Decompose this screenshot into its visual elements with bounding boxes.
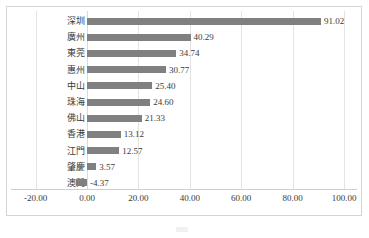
bar-row: 香港13.12 [7, 126, 361, 142]
bar-track: 13.12 [7, 126, 361, 142]
x-tick-label: 40.00 [180, 193, 200, 203]
bar [87, 50, 176, 57]
bar-row: 江門12.57 [7, 143, 361, 159]
bar [87, 66, 166, 73]
bar-track: 30.77 [7, 62, 361, 78]
x-tick-label: 0.00 [79, 193, 95, 203]
bar [76, 179, 87, 186]
value-label: 25.40 [155, 78, 175, 94]
bar [87, 18, 321, 25]
bar-track: 21.33 [7, 110, 361, 126]
bar-rows: 深圳91.02廣州40.29東莞34.74惠州30.77中山25.40珠海24.… [7, 13, 361, 191]
bar [87, 82, 152, 89]
value-label: 91.02 [324, 13, 344, 29]
bar-row: 中山25.40 [7, 78, 361, 94]
x-tick-label: 100.00 [332, 193, 357, 203]
value-label: 30.77 [169, 62, 189, 78]
value-label: 13.12 [124, 126, 144, 142]
caption-marker-icon [176, 227, 188, 232]
bar-row: 佛山21.33 [7, 110, 361, 126]
value-label: 24.60 [153, 94, 173, 110]
bar [87, 147, 119, 154]
bar [87, 34, 191, 41]
bar-row: 珠海24.60 [7, 94, 361, 110]
bar-row: 深圳91.02 [7, 13, 361, 29]
x-tick-label: 20.00 [128, 193, 148, 203]
bar-row: 惠州30.77 [7, 62, 361, 78]
value-label: 40.29 [194, 29, 214, 45]
bar-track: 40.29 [7, 29, 361, 45]
bar-track: 3.57 [7, 159, 361, 175]
value-label: 12.57 [122, 143, 142, 159]
bar-track: 34.74 [7, 45, 361, 61]
figure-caption [0, 224, 369, 238]
plot-area: 深圳91.02廣州40.29東莞34.74惠州30.77中山25.40珠海24.… [7, 7, 361, 215]
bar-track: 25.40 [7, 78, 361, 94]
x-axis-line [11, 189, 357, 190]
chart-frame: 深圳91.02廣州40.29東莞34.74惠州30.77中山25.40珠海24.… [6, 6, 362, 216]
value-label: 3.57 [99, 159, 115, 175]
x-axis: -20.000.0020.0040.0060.0080.00100.00 [7, 189, 361, 215]
bar [87, 163, 96, 170]
x-tick-label: 60.00 [231, 193, 251, 203]
bar-track: 24.60 [7, 94, 361, 110]
bar [87, 99, 150, 106]
x-tick-label: 80.00 [282, 193, 302, 203]
bar-row: 東莞34.74 [7, 45, 361, 61]
value-label: 21.33 [145, 110, 165, 126]
value-label: 34.74 [179, 45, 199, 61]
x-tick-label: -20.00 [24, 193, 47, 203]
bar-track: 91.02 [7, 13, 361, 29]
bar [87, 115, 142, 122]
bar-row: 廣州40.29 [7, 29, 361, 45]
bar-track: 12.57 [7, 143, 361, 159]
bar [87, 131, 121, 138]
bar-row: 肇慶3.57 [7, 159, 361, 175]
